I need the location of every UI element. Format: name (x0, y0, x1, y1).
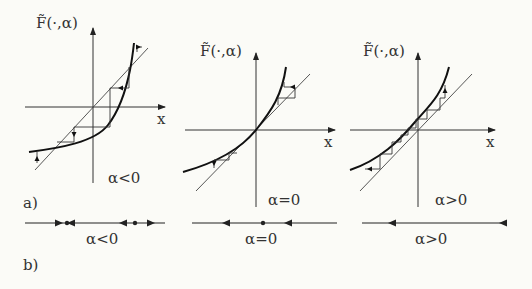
cobweb-lines (37, 47, 142, 163)
panel-alpha-positive (350, 53, 495, 207)
cobweb-arrows (212, 85, 296, 167)
phase-line-alpha-positive (362, 220, 507, 227)
y-axis-label: F̃(·,α) (200, 42, 242, 60)
phase-condition-label: α>0 (415, 230, 447, 248)
phase-line-alpha-zero (192, 220, 337, 227)
fixed-point-stable (65, 221, 69, 225)
cobweb-arrows (35, 45, 142, 162)
y-axis-label: F̃(·,α) (363, 42, 405, 60)
map-curve (350, 67, 449, 170)
panel-alpha-zero (183, 53, 335, 207)
panel-alpha-negative (25, 28, 165, 183)
condition-label: α=0 (268, 191, 300, 209)
phase-condition-label: α=0 (245, 230, 277, 248)
x-axis-label: x (324, 133, 332, 151)
part-b-label: b) (23, 256, 38, 274)
condition-label: α>0 (435, 191, 467, 209)
phase-line-alpha-negative (25, 220, 165, 227)
part-a-label: a) (23, 194, 38, 212)
x-axis-label: x (486, 133, 494, 151)
phase-condition-label: α<0 (86, 230, 118, 248)
diagonal-line (360, 74, 472, 191)
map-curve (183, 67, 286, 172)
x-axis-label: x (157, 110, 165, 128)
condition-label: α<0 (108, 169, 140, 187)
y-axis-label: F̃(·,α) (36, 14, 78, 32)
map-curve (29, 43, 134, 152)
fixed-point-semistable (261, 221, 265, 225)
fixed-point-unstable (133, 221, 137, 225)
